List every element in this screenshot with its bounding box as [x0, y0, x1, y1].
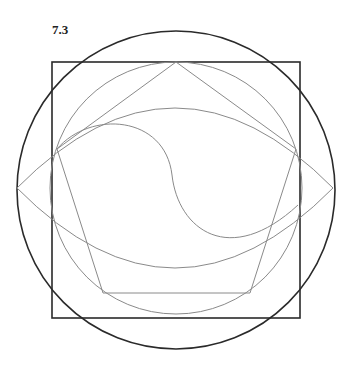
s-curve	[57, 124, 298, 238]
outer-circle	[17, 31, 335, 349]
pentagon	[57, 62, 296, 293]
lens-shape	[17, 108, 333, 268]
inner-circle	[50, 62, 302, 314]
geometric-construction-diagram	[0, 0, 345, 367]
